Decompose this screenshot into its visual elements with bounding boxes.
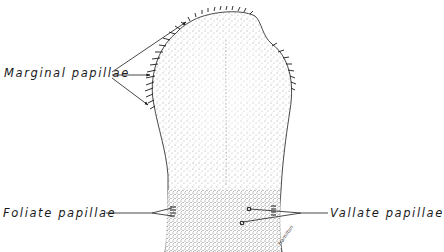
label-marginal-papillae: Marginal papillae bbox=[4, 68, 130, 80]
label-vallate-papillae: Vallate papillae bbox=[330, 208, 444, 220]
label-foliate-papillae: Foliate papillae bbox=[3, 208, 116, 220]
